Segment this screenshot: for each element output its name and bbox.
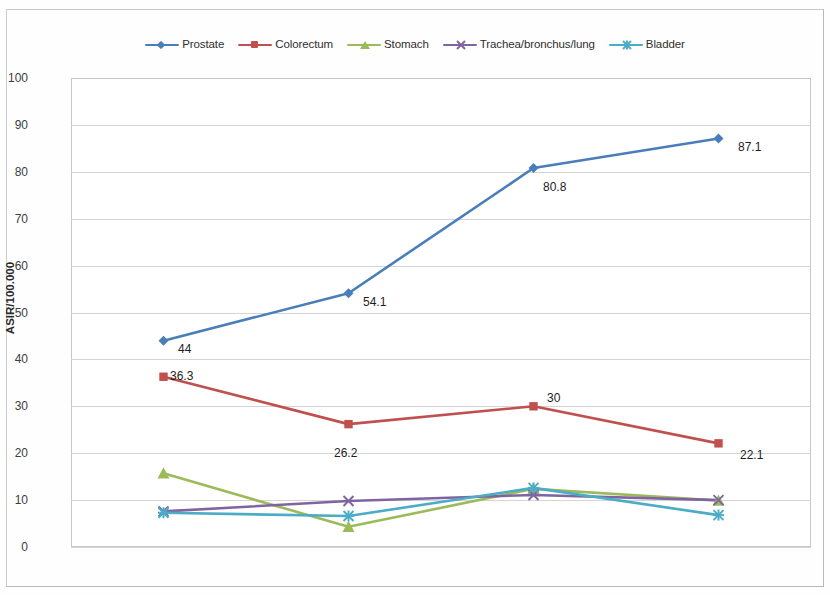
legend-item-colorectum[interactable]: Colorectum bbox=[238, 38, 333, 50]
plot-area: 0102030405060708090100 2007200820092010 … bbox=[71, 78, 811, 547]
legend-label-prostate: Prostate bbox=[182, 38, 224, 50]
legend-swatch-bladder bbox=[609, 39, 643, 50]
data-point-marker bbox=[159, 373, 167, 381]
data-point-marker bbox=[159, 336, 169, 346]
legend-swatch-colorectum bbox=[238, 39, 272, 50]
data-point-marker bbox=[714, 439, 722, 447]
series-line-prostate bbox=[164, 139, 719, 341]
series-line-stomach bbox=[164, 473, 719, 526]
legend-swatch-trachea-bronchus-lung bbox=[443, 39, 477, 50]
data-point-marker bbox=[158, 467, 170, 478]
legend-swatch-prostate bbox=[145, 39, 179, 50]
y-tick-label: 70 bbox=[0, 212, 28, 226]
y-tick-label: 80 bbox=[0, 165, 28, 179]
y-tick-label: 10 bbox=[0, 493, 28, 507]
data-point-marker bbox=[714, 134, 724, 144]
legend-item-bladder[interactable]: Bladder bbox=[609, 38, 685, 50]
data-point-marker bbox=[343, 511, 354, 522]
data-point-marker bbox=[713, 510, 724, 521]
legend-label-bladder: Bladder bbox=[646, 38, 685, 50]
series-lines bbox=[71, 78, 811, 547]
chart-legend: ProstateColorectumStomachTrachea/bronchu… bbox=[0, 38, 830, 50]
y-tick-label: 20 bbox=[0, 446, 28, 460]
data-point-marker bbox=[158, 507, 169, 518]
y-tick-label: 0 bbox=[0, 540, 28, 554]
chart-figure: ProstateColorectumStomachTrachea/bronchu… bbox=[0, 0, 830, 595]
legend-item-stomach[interactable]: Stomach bbox=[347, 38, 429, 50]
data-point-marker bbox=[344, 420, 352, 428]
legend-label-trachea-bronchus-lung: Trachea/bronchus/lung bbox=[480, 38, 595, 50]
legend-label-stomach: Stomach bbox=[384, 38, 429, 50]
legend-item-trachea-bronchus-lung[interactable]: Trachea/bronchus/lung bbox=[443, 38, 595, 50]
data-point-marker bbox=[528, 482, 539, 493]
y-tick-label: 90 bbox=[0, 118, 28, 132]
data-point-marker bbox=[529, 402, 537, 410]
y-tick-label: 50 bbox=[0, 306, 28, 320]
legend-label-colorectum: Colorectum bbox=[275, 38, 333, 50]
gridline bbox=[71, 547, 811, 548]
y-tick-label: 40 bbox=[0, 352, 28, 366]
series-line-colorectum bbox=[164, 377, 719, 444]
y-tick-label: 30 bbox=[0, 399, 28, 413]
y-tick-label: 60 bbox=[0, 259, 28, 273]
series-line-bladder bbox=[164, 488, 719, 516]
y-tick-label: 100 bbox=[0, 71, 28, 85]
legend-item-prostate[interactable]: Prostate bbox=[145, 38, 224, 50]
legend-swatch-stomach bbox=[347, 39, 381, 50]
